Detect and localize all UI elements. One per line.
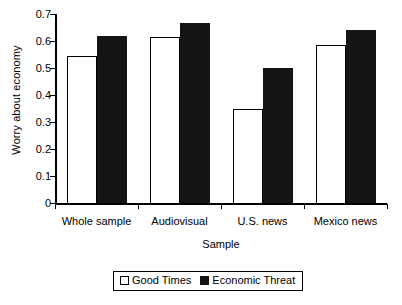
bar-open bbox=[233, 109, 263, 203]
x-tick-mark bbox=[55, 204, 56, 209]
legend-entry: Economic Threat bbox=[200, 274, 295, 287]
y-tick-label: 0.7 bbox=[21, 9, 51, 20]
bar-filled bbox=[97, 36, 127, 203]
x-tick-mark bbox=[387, 204, 388, 209]
x-axis-title: Sample bbox=[55, 238, 387, 251]
bar-open bbox=[316, 45, 346, 203]
category-label: Audiovisual bbox=[151, 215, 207, 228]
bar-open bbox=[150, 37, 180, 203]
legend-label: Economic Threat bbox=[212, 274, 295, 287]
y-tick-label: 0.3 bbox=[21, 117, 51, 128]
category-label: U.S. news bbox=[237, 215, 287, 228]
y-tick-label: 0.4 bbox=[21, 90, 51, 101]
category-label: Mexico news bbox=[314, 215, 378, 228]
y-axis-line bbox=[55, 14, 57, 204]
legend-swatch-filled-icon bbox=[200, 276, 209, 285]
chart-legend: Good TimesEconomic Threat bbox=[113, 271, 303, 291]
bar-open bbox=[67, 56, 97, 203]
y-tick-label: 0 bbox=[21, 198, 51, 209]
legend-label: Good Times bbox=[132, 274, 191, 287]
legend-swatch-open-icon bbox=[120, 276, 129, 285]
bar-filled bbox=[180, 23, 210, 203]
y-tick-label: 0.1 bbox=[21, 171, 51, 182]
plot-area: 00.10.20.30.40.50.60.7 Whole sampleAudio… bbox=[55, 14, 387, 203]
bar-filled bbox=[346, 30, 376, 203]
x-tick-mark bbox=[304, 204, 305, 209]
bar-chart-figure: Worry about economy 00.10.20.30.40.50.60… bbox=[0, 0, 402, 305]
x-tick-mark bbox=[138, 204, 139, 209]
legend-entry: Good Times bbox=[120, 274, 191, 287]
y-tick-label: 0.5 bbox=[21, 63, 51, 74]
category-label: Whole sample bbox=[62, 215, 132, 228]
y-tick-label: 0.2 bbox=[21, 144, 51, 155]
x-tick-mark bbox=[221, 204, 222, 209]
y-tick-label: 0.6 bbox=[21, 36, 51, 47]
bar-filled bbox=[263, 68, 293, 203]
